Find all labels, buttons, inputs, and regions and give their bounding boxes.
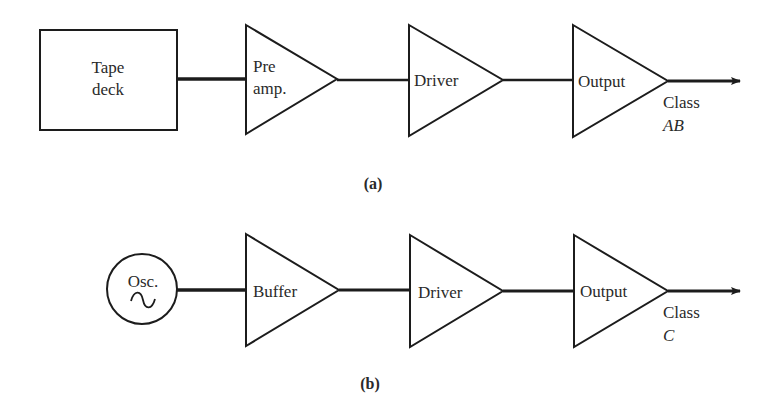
caption-b: (b)	[360, 375, 380, 393]
output-label-a: Output	[578, 72, 626, 91]
preamp-label-line1: Pre	[253, 57, 276, 76]
tape-deck-label-line1: Tape	[92, 58, 125, 77]
class-label-b: Class	[663, 303, 700, 322]
oscillator-label: Osc.	[128, 272, 159, 291]
class-value-a: AB	[662, 116, 684, 135]
diagram-b: Osc. Buffer Driver Output Class C (b)	[107, 234, 740, 393]
output-block-b: Output	[574, 235, 668, 347]
output-block-a: Output	[573, 25, 668, 137]
driver-block-b: Driver	[410, 235, 503, 347]
diagram-a: Tape deck Pre amp. Driver Output Class A…	[40, 25, 740, 193]
driver-block-a: Driver	[409, 25, 503, 136]
block-diagrams: Tape deck Pre amp. Driver Output Class A…	[0, 0, 772, 416]
class-label-a: Class	[663, 93, 700, 112]
preamp-label-line2: amp.	[253, 79, 287, 98]
buffer-block: Buffer	[246, 234, 339, 346]
tape-deck-block: Tape deck	[40, 30, 177, 130]
driver-label-b: Driver	[418, 283, 463, 302]
output-label-b: Output	[580, 282, 628, 301]
class-value-b: C	[663, 326, 675, 345]
tape-deck-label-line2: deck	[92, 80, 125, 99]
oscillator-block: Osc.	[107, 254, 177, 324]
preamp-block: Pre amp.	[246, 25, 337, 134]
driver-label-a: Driver	[414, 71, 459, 90]
buffer-label: Buffer	[253, 282, 297, 301]
caption-a: (a)	[364, 175, 383, 193]
